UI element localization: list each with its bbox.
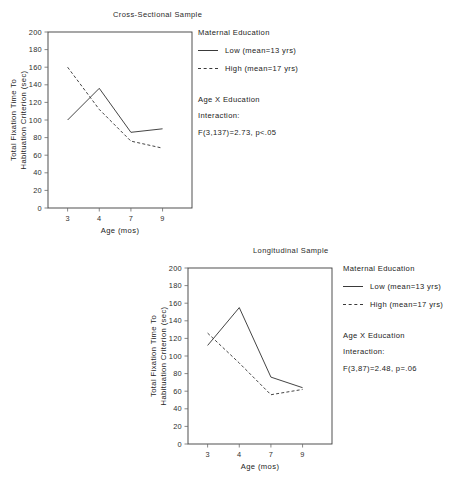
y-tick-label: 200 xyxy=(29,28,42,37)
series-line-high xyxy=(68,67,163,148)
legend-heading: Maternal Education xyxy=(198,28,298,37)
x-axis-title: Age (mos) xyxy=(101,226,140,235)
y-tick-label: 80 xyxy=(173,369,182,378)
legend-item-high: High (mean=17 yrs) xyxy=(198,64,298,73)
y-axis-title: Habituation Criterion (sec) xyxy=(19,70,28,169)
legend-line-solid-icon xyxy=(343,286,363,287)
stats-effect-name: Age X Education xyxy=(343,331,417,340)
y-tick-label: 160 xyxy=(29,63,42,72)
x-tick-label: 3 xyxy=(205,450,209,459)
stats-effect-name: Age X Education xyxy=(198,95,276,104)
y-tick-label: 180 xyxy=(29,45,42,54)
legend-line-dashed-icon xyxy=(343,304,363,305)
legend: Maternal Education Low (mean=13 yrs) Hig… xyxy=(343,264,443,318)
y-tick-label: 160 xyxy=(169,299,182,308)
y-axis-title: Total Fixation Time To xyxy=(149,315,158,397)
y-tick-label: 0 xyxy=(38,204,42,213)
figure-longitudinal: Longitudinal Sample 02040608010012014016… xyxy=(0,238,462,483)
y-tick-label: 0 xyxy=(178,440,182,449)
y-tick-label: 40 xyxy=(173,404,182,413)
stats-effect-type: Interaction: xyxy=(343,347,417,356)
y-tick-label: 20 xyxy=(33,186,42,195)
legend-item-label: Low (mean=13 yrs) xyxy=(370,282,441,291)
y-axis-title: Total Fixation Time To xyxy=(9,79,18,161)
stats-effect-type: Interaction: xyxy=(198,111,276,120)
statistics-annotation: Age X Education Interaction: F(3,87)=2.4… xyxy=(343,331,417,373)
legend-item-low: Low (mean=13 yrs) xyxy=(343,282,443,291)
y-tick-label: 180 xyxy=(169,281,182,290)
stats-test-result: F(3,137)=2.73, p<.05 xyxy=(198,128,276,137)
y-tick-label: 140 xyxy=(169,316,182,325)
legend-heading: Maternal Education xyxy=(343,264,443,273)
x-tick-label: 3 xyxy=(65,214,69,223)
y-tick-label: 40 xyxy=(33,168,42,177)
legend-item-high: High (mean=17 yrs) xyxy=(343,300,443,309)
y-tick-label: 100 xyxy=(169,352,182,361)
legend: Maternal Education Low (mean=13 yrs) Hig… xyxy=(198,28,298,82)
y-tick-label: 60 xyxy=(33,151,42,160)
x-tick-label: 9 xyxy=(160,214,164,223)
plot-area-cross-sectional: 0204060801001201401601802003479Age (mos)… xyxy=(0,22,200,240)
plot-frame xyxy=(48,32,192,208)
x-tick-label: 7 xyxy=(269,450,273,459)
legend-line-solid-icon xyxy=(198,50,218,51)
figure-cross-sectional: Cross-Sectional Sample 02040608010012014… xyxy=(0,0,462,240)
chart-svg: 0204060801001201401601802003479Age (mos)… xyxy=(140,258,340,476)
chart-svg: 0204060801001201401601802003479Age (mos)… xyxy=(0,22,200,240)
x-tick-label: 9 xyxy=(300,450,304,459)
y-tick-label: 100 xyxy=(29,116,42,125)
chart-title: Cross-Sectional Sample xyxy=(113,10,202,19)
legend-item-low: Low (mean=13 yrs) xyxy=(198,46,298,55)
y-tick-label: 140 xyxy=(29,80,42,89)
y-tick-label: 60 xyxy=(173,387,182,396)
y-axis-title: Habituation Criterion (sec) xyxy=(159,306,168,405)
plot-frame xyxy=(188,268,332,444)
legend-item-label: High (mean=17 yrs) xyxy=(370,300,443,309)
chart-title: Longitudinal Sample xyxy=(253,246,329,255)
x-tick-label: 4 xyxy=(97,214,101,223)
series-line-low xyxy=(208,308,303,388)
x-tick-label: 7 xyxy=(129,214,133,223)
y-tick-label: 120 xyxy=(29,98,42,107)
x-tick-label: 4 xyxy=(237,450,241,459)
stats-test-result: F(3,87)=2.48, p=.06 xyxy=(343,364,417,373)
y-tick-label: 120 xyxy=(169,334,182,343)
y-tick-label: 200 xyxy=(169,264,182,273)
y-tick-label: 80 xyxy=(33,133,42,142)
x-axis-title: Age (mos) xyxy=(241,462,280,471)
legend-line-dashed-icon xyxy=(198,68,218,69)
y-tick-label: 20 xyxy=(173,422,182,431)
legend-item-label: Low (mean=13 yrs) xyxy=(225,46,296,55)
statistics-annotation: Age X Education Interaction: F(3,137)=2.… xyxy=(198,95,276,137)
legend-item-label: High (mean=17 yrs) xyxy=(225,64,298,73)
plot-area-longitudinal: 0204060801001201401601802003479Age (mos)… xyxy=(140,258,340,476)
